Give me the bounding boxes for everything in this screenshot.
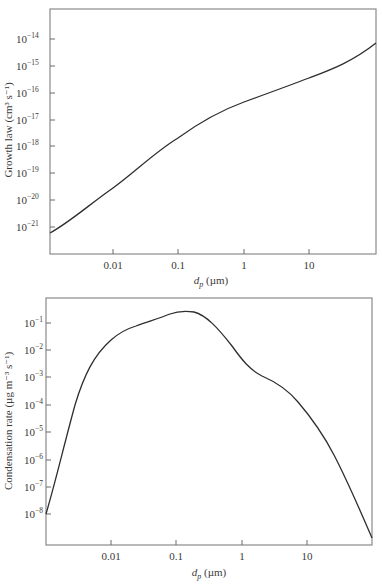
x-axis-label: dp (µm)	[192, 566, 227, 581]
x-axis-tick-labels: 0.01 0.1 1 10	[103, 259, 315, 271]
y-axis-tick-labels: 10−1 10−2 10−3 10−4 10−5 10−6 10−7 10−8	[24, 315, 43, 520]
x-tick-label: 0.01	[103, 259, 122, 271]
svg-text:10−21: 10−21	[16, 219, 39, 233]
x-tick-label: 10	[302, 550, 314, 562]
svg-text:10−20: 10−20	[16, 192, 39, 206]
plot-frame	[50, 9, 376, 254]
svg-text:10−19: 10−19	[16, 165, 39, 179]
svg-text:10−15: 10−15	[16, 58, 39, 72]
x-tick-label: 0.1	[171, 259, 185, 271]
x-tick-label: 1	[241, 259, 247, 271]
x-tick-label: 10	[304, 259, 316, 271]
x-axis-ticks	[111, 540, 307, 545]
plot-frame	[46, 298, 372, 545]
svg-text:10−2: 10−2	[24, 342, 43, 356]
svg-text:10−8: 10−8	[24, 506, 43, 520]
y-axis-ticks	[46, 323, 51, 514]
y-axis-label: Condensation rate (µg m⁻³ s⁻¹)	[2, 352, 15, 491]
svg-text:10−1: 10−1	[24, 315, 43, 329]
x-tick-label: 0.1	[169, 550, 183, 562]
svg-text:10−7: 10−7	[24, 479, 43, 493]
condensation-rate-curve	[46, 311, 372, 538]
condensation-rate-chart: 0.01 0.1 1 10 dp (µm) 10−1 10−2 10−3 10−…	[2, 298, 372, 581]
svg-text:10−14: 10−14	[16, 31, 39, 45]
x-axis-ticks	[113, 249, 309, 254]
svg-text:10−16: 10−16	[16, 85, 39, 99]
svg-text:10−4: 10−4	[24, 397, 43, 411]
growth-law-curve	[50, 43, 376, 233]
svg-text:10−18: 10−18	[16, 138, 39, 152]
y-axis-label: Growth law (cm³ s⁻¹)	[2, 82, 15, 178]
x-axis-tick-labels: 0.01 0.1 1 10	[101, 550, 313, 562]
svg-text:10−6: 10−6	[24, 452, 43, 466]
y-axis-ticks	[50, 39, 55, 227]
growth-law-chart: 0.01 0.1 1 10 dp (µm) 10−14 10−15 10−16 …	[2, 9, 376, 289]
svg-text:10−17: 10−17	[16, 112, 39, 126]
x-axis-label: dp (µm)	[194, 274, 229, 289]
figure: 0.01 0.1 1 10 dp (µm) 10−14 10−15 10−16 …	[0, 0, 382, 586]
y-axis-tick-labels: 10−14 10−15 10−16 10−17 10−18 10−19 10−2…	[16, 31, 39, 233]
x-tick-label: 0.01	[101, 550, 120, 562]
svg-text:10−5: 10−5	[24, 424, 43, 438]
svg-text:10−3: 10−3	[24, 369, 43, 383]
x-tick-label: 1	[239, 550, 245, 562]
